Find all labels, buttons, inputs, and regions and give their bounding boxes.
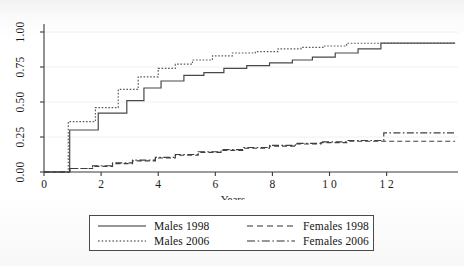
y-tick-label-2: 0.50	[14, 91, 26, 112]
legend-swatch-dashed-icon	[245, 222, 297, 230]
x-tick-label-6: 1 2	[379, 178, 394, 190]
legend-item-females-2006: Females 2006	[225, 233, 369, 248]
x-tick-label-3: 6	[212, 178, 218, 190]
x-tick-label-0: 0	[41, 178, 47, 190]
series-males-2006	[44, 43, 455, 172]
figure: 0.000.250.500.751.00024681 01 2Years Mal…	[0, 0, 464, 266]
y-tick-label-3: 0.75	[14, 56, 26, 77]
legend-label-males-1998: Males 1998	[154, 220, 209, 232]
legend-item-females-1998: Females 1998	[225, 218, 369, 233]
x-tick-label-4: 8	[270, 178, 276, 190]
y-tick-label-4: 1.00	[14, 21, 26, 42]
series-females-1998	[44, 141, 455, 172]
x-tick-label-5: 1 0	[322, 178, 337, 190]
legend-swatch-dashdot-icon	[245, 237, 297, 245]
plot-area: 0.000.250.500.751.00024681 01 2Years	[0, 0, 464, 200]
legend-label-females-1998: Females 1998	[303, 220, 369, 232]
x-tick-label-1: 2	[98, 178, 104, 190]
x-axis-title: Years	[221, 193, 246, 200]
x-tick-label-2: 4	[155, 178, 161, 190]
series-females-2006	[44, 133, 455, 172]
legend-swatch-dotted-icon	[96, 237, 148, 245]
legend-item-males-1998: Males 1998	[96, 218, 225, 233]
y-tick-label-0: 0.00	[14, 161, 26, 182]
legend-item-males-2006: Males 2006	[96, 233, 225, 248]
chart-legend: Males 1998 Females 1998 Males 2006 Femal…	[89, 215, 374, 251]
legend-swatch-solid-icon	[96, 222, 148, 230]
step-chart: 0.000.250.500.751.00024681 01 2Years	[0, 0, 464, 200]
y-tick-label-1: 0.25	[14, 126, 26, 147]
legend-label-females-2006: Females 2006	[303, 235, 369, 247]
legend-label-males-2006: Males 2006	[154, 235, 209, 247]
